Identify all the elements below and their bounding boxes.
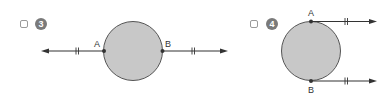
- point-a-label: A: [308, 8, 314, 18]
- point-a: [309, 20, 313, 24]
- problem-4-diagram: A B: [240, 0, 391, 97]
- right-arrow-icon: [220, 49, 228, 54]
- left-arrow-icon: [41, 49, 49, 54]
- point-b: [161, 49, 165, 53]
- problem-4: 4 A B: [240, 0, 391, 97]
- problem-3: 3 A B: [0, 0, 240, 97]
- point-a: [102, 49, 106, 53]
- point-a-label: A: [94, 39, 100, 49]
- point-b: [309, 79, 313, 83]
- circle: [282, 22, 341, 81]
- problem-3-diagram: A B: [0, 0, 240, 97]
- point-b-label: B: [308, 85, 314, 95]
- circle: [104, 22, 163, 81]
- bottom-arrow-icon: [369, 79, 377, 84]
- point-b-label: B: [165, 39, 171, 49]
- top-arrow-icon: [369, 19, 377, 24]
